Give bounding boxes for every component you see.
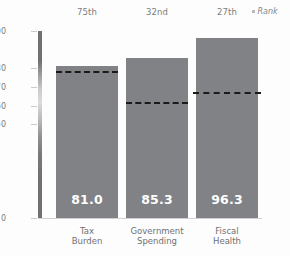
category-label-tax-burden: Tax Burden	[52, 226, 122, 246]
bar-value-fiscal-health: 96.3	[196, 192, 258, 207]
bar-fiscal-health[interactable]	[196, 38, 258, 218]
bars-layer: 81.0 85.3 96.3	[0, 0, 290, 256]
bar-value-government-spending: 85.3	[126, 192, 188, 207]
category-label-fiscal-health: Fiscal Health	[192, 226, 262, 246]
reference-line-government-spending	[126, 102, 188, 104]
bar-value-tax-burden: 81.0	[56, 192, 118, 207]
rank-score-bar-chart: 75th 32nd 27th Rank 100 80 70 60 50 0 81…	[0, 0, 290, 256]
reference-line-tax-burden	[56, 71, 118, 73]
category-label-government-spending: Government Spending	[120, 226, 194, 246]
reference-line-fiscal-health	[193, 92, 261, 94]
